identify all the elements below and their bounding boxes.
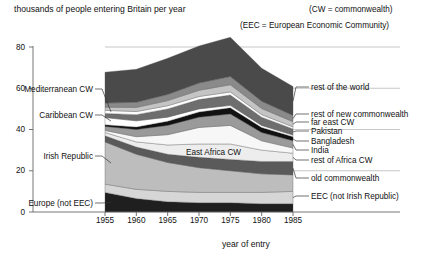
series-label-mediterranean-cw: Mediterranean CW xyxy=(24,85,93,94)
series-label-bangladesh: Bangladesh xyxy=(311,137,354,146)
y-axis-tick-label: 0 xyxy=(7,208,25,217)
x-axis-tick-label: 1955 xyxy=(90,216,120,225)
y-axis-tick-label: 80 xyxy=(7,43,25,52)
x-axis-tick-label: 1975 xyxy=(215,216,245,225)
series-label-east-africa-cw: East Africa CW xyxy=(186,148,241,157)
x-axis-title: year of entry xyxy=(222,240,270,249)
series-label-rest-of-africa-cw: rest of Africa CW xyxy=(311,156,372,165)
x-axis-tick-label: 1985 xyxy=(278,216,308,225)
plot-area xyxy=(0,0,422,265)
series-label-rest-of-new-commonwealth: rest of new commonwealth xyxy=(311,110,408,119)
series-label-far-east-cw: far east CW xyxy=(311,118,354,127)
series-label-old-commonwealth: old commonwealth xyxy=(311,174,379,183)
x-axis-tick-label: 1970 xyxy=(184,216,214,225)
x-axis-tick-label: 1980 xyxy=(247,216,277,225)
y-axis-tick-label: 20 xyxy=(7,166,25,175)
y-axis-tick-label: 40 xyxy=(7,125,25,134)
series-label-rest-of-the-world: rest of the world xyxy=(311,83,369,92)
stacked-bands xyxy=(105,37,293,212)
series-label-india: India xyxy=(311,146,329,155)
series-label-europe-not-eec: Europe (not EEC) xyxy=(28,199,93,208)
immigration-stacked-area-chart: thousands of people entering Britain per… xyxy=(0,0,422,265)
x-axis-tick-label: 1965 xyxy=(153,216,183,225)
y-axis-tick-label: 60 xyxy=(7,84,25,93)
x-axis-tick-label: 1960 xyxy=(121,216,151,225)
series-label-pakistan: Pakistan xyxy=(311,127,342,136)
series-label-caribbean-cw: Caribbean CW xyxy=(39,111,93,120)
series-label-eec-not-irish-republic: EEC (not Irish Republic) xyxy=(311,192,399,201)
series-label-irish-republic: Irish Republic xyxy=(43,152,93,161)
